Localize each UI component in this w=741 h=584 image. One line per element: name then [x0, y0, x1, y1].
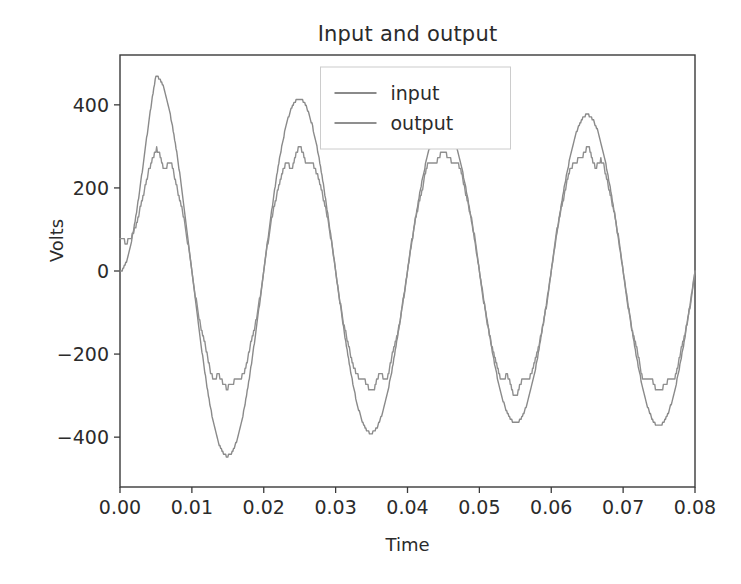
y-tick-label: −400	[57, 426, 109, 448]
x-tick-label: 0.02	[243, 496, 285, 518]
matplotlib-figure: Input and output Volts Time 0.000.010.02…	[0, 0, 741, 584]
x-tick-label: 0.04	[386, 496, 428, 518]
x-tick-label: 0.07	[602, 496, 644, 518]
y-tick-label: 200	[73, 177, 109, 199]
chart-legend[interactable]: inputoutput	[321, 67, 511, 149]
legend-label-output: output	[391, 112, 454, 134]
x-tick-label: 0.00	[99, 496, 141, 518]
x-tick-labels: 0.000.010.020.030.040.050.060.070.08	[99, 496, 716, 518]
x-tick-label: 0.01	[171, 496, 213, 518]
series-line-output	[120, 147, 695, 395]
y-tick-label: −200	[57, 343, 109, 365]
x-tick-label: 0.03	[314, 496, 356, 518]
y-tick-labels: 4002000−200−400	[57, 94, 109, 448]
y-tick-label: 400	[73, 94, 109, 116]
x-tick-label: 0.08	[674, 496, 716, 518]
y-tick-label: 0	[97, 260, 109, 282]
plot-canvas: 0.000.010.020.030.040.050.060.070.08 400…	[0, 0, 741, 584]
legend-frame	[321, 67, 511, 149]
y-tick-marks	[114, 105, 120, 437]
x-tick-marks	[120, 487, 695, 493]
x-tick-label: 0.05	[458, 496, 500, 518]
x-tick-label: 0.06	[530, 496, 572, 518]
legend-label-input: input	[391, 82, 440, 104]
